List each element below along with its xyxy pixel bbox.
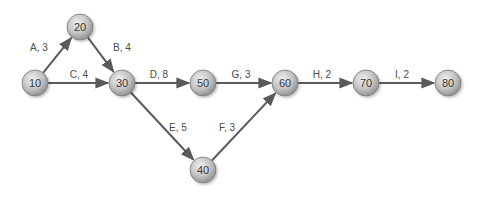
node-label: 80 (442, 77, 454, 89)
edge-label-i: I, 2 (395, 69, 409, 80)
node-40: 40 (190, 157, 216, 183)
node-label: 10 (29, 77, 41, 89)
node-label: 20 (74, 21, 86, 33)
edge-label-g: G, 3 (232, 69, 251, 80)
edge-label-h: H, 2 (313, 69, 332, 80)
edge-label-b: B, 4 (113, 42, 131, 53)
edges-layer (43, 37, 434, 160)
node-label: 30 (116, 77, 128, 89)
node-10: 10 (22, 70, 48, 96)
edge-label-d: D, 8 (150, 69, 169, 80)
edge-label-e: E, 5 (169, 122, 187, 133)
node-80: 80 (435, 70, 461, 96)
node-label: 60 (279, 77, 291, 89)
node-60: 60 (272, 70, 298, 96)
edge-labels-layer: A, 3B, 4C, 4D, 8E, 5F, 3G, 3H, 2I, 2 (30, 42, 409, 133)
node-30: 30 (109, 70, 135, 96)
node-label: 70 (360, 77, 372, 89)
network-diagram: A, 3B, 4C, 4D, 8E, 5F, 3G, 3H, 2I, 2 102… (0, 0, 482, 197)
node-50: 50 (190, 70, 216, 96)
node-label: 50 (197, 77, 209, 89)
edge-label-f: F, 3 (219, 122, 236, 133)
nodes-layer: 1020304050607080 (22, 14, 461, 183)
node-70: 70 (353, 70, 379, 96)
edge-arrow-b (88, 37, 114, 71)
edge-label-c: C, 4 (70, 69, 89, 80)
edge-label-a: A, 3 (30, 42, 48, 53)
node-label: 40 (197, 164, 209, 176)
node-20: 20 (67, 14, 93, 40)
